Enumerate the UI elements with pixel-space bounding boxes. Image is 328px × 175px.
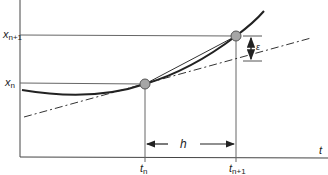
diagram-svg: xn+1 xn tn tn+1 t h ε <box>0 0 328 175</box>
label-t-axis: t <box>319 144 323 156</box>
x-n-plus-1-guide <box>20 35 236 36</box>
point-n-plus-1 <box>231 31 241 41</box>
secant-chord <box>145 36 236 84</box>
point-n <box>140 79 150 89</box>
x-n-guide <box>20 83 145 84</box>
label-t-n: tn <box>140 162 148 175</box>
label-epsilon: ε <box>256 42 261 52</box>
label-x-n: xn <box>4 76 15 90</box>
x-axis <box>20 157 328 158</box>
diagram-canvas: xn+1 xn tn tn+1 t h ε <box>0 0 328 175</box>
label-h: h <box>180 137 187 151</box>
tangent-line <box>24 38 311 117</box>
label-t-n-plus-1: tn+1 <box>229 162 246 175</box>
